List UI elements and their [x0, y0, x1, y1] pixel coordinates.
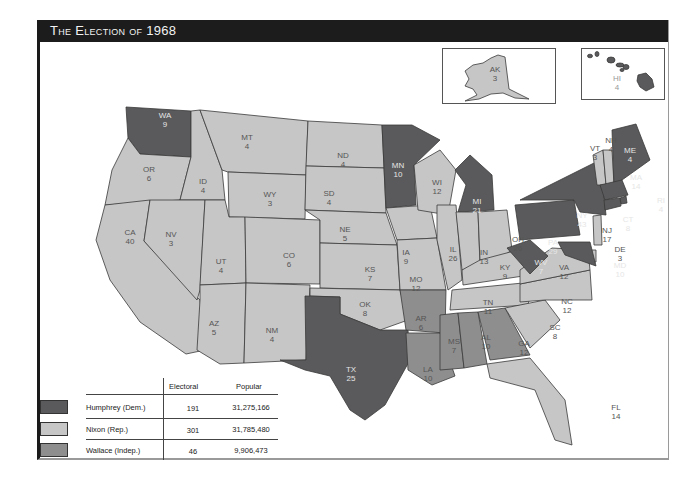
legend-header-popular: Popular	[236, 382, 262, 391]
state-votes-ga: 12	[520, 348, 529, 357]
state-votes-pa: 29	[549, 247, 558, 256]
state-az	[197, 283, 246, 364]
legend-rule	[86, 439, 278, 440]
nixon-swatch	[40, 422, 68, 436]
state-label-nc: NC	[561, 297, 573, 306]
state-votes-ar: 6	[419, 323, 424, 332]
state-label-ne: NE	[339, 225, 350, 234]
legend-row-electoral: 301	[173, 426, 213, 435]
legend-row-name: Humphrey (Dem.)	[86, 403, 146, 412]
humphrey-swatch	[40, 400, 68, 414]
state-votes-mn: 10	[394, 170, 403, 179]
state-votes-nc: 12	[563, 306, 572, 315]
legend-row-popular: 31,275,166	[220, 403, 282, 412]
legend-row-name: Nixon (Rep.)	[86, 425, 128, 434]
state-votes-la: 10	[424, 374, 433, 383]
state-label-az: AZ	[209, 319, 219, 328]
state-label-co: CO	[283, 251, 295, 260]
state-fl	[487, 358, 572, 445]
state-label-ga: GA	[518, 339, 530, 348]
state-votes-ct: 8	[626, 224, 631, 233]
legend-row-name: Wallace (Indep.)	[86, 446, 140, 455]
state-votes-sd: 4	[327, 198, 332, 207]
state-label-mi: MI	[473, 197, 482, 206]
state-votes-ms: 7	[452, 346, 457, 355]
legend-table: Electoral Popular Humphrey (Dem.) 191 31…	[40, 378, 280, 460]
state-label-de: DE	[614, 245, 625, 254]
state-votes-nd: 4	[341, 160, 346, 169]
state-label-nm: NM	[266, 326, 279, 335]
state-label-ct: CT	[623, 215, 634, 224]
state-votes-ok: 8	[363, 309, 368, 318]
state-votes-ia: 9	[404, 257, 409, 266]
state-label-mo: MO	[410, 275, 423, 284]
legend-divider	[163, 378, 164, 460]
state-votes-tn: 11	[484, 307, 493, 316]
state-votes-mt: 4	[245, 142, 250, 151]
state-ct	[604, 198, 621, 210]
state-votes-ri: 4	[659, 205, 664, 214]
state-votes-ky: 9	[503, 272, 508, 281]
hawaii-label: HI	[613, 74, 621, 83]
state-label-la: LA	[423, 365, 433, 374]
state-label-ri: RI	[657, 196, 665, 205]
state-votes-mi: 21	[473, 206, 482, 215]
state-label-ks: KS	[365, 265, 376, 274]
legend-row-electoral: 46	[173, 447, 213, 456]
state-votes-ne: 5	[343, 234, 348, 243]
legend-header-electoral: Electoral	[169, 382, 198, 391]
state-votes-md: 10	[616, 270, 625, 279]
state-votes-wa: 9	[163, 120, 168, 129]
state-label-nd: ND	[337, 151, 349, 160]
state-label-in: IN	[480, 248, 488, 257]
state-label-va: VA	[559, 263, 570, 272]
legend-rule	[86, 394, 278, 395]
alaska-inset: AK 3	[442, 48, 556, 104]
state-ri	[620, 196, 627, 204]
state-votes-il: 26	[449, 254, 458, 263]
state-votes-ny: 43	[578, 220, 587, 229]
state-votes-mo: 12	[412, 284, 421, 293]
legend-rule	[86, 418, 278, 419]
state-votes-fl: 14	[612, 412, 621, 421]
alaska-label: AK	[490, 65, 501, 74]
state-label-mt: MT	[241, 133, 253, 142]
state-label-ca: CA	[124, 228, 136, 237]
wallace-swatch	[40, 443, 68, 457]
state-label-ok: OK	[359, 300, 371, 309]
state-votes-ma: 14	[632, 182, 641, 191]
state-label-il: IL	[450, 245, 457, 254]
state-label-wa: WA	[159, 111, 172, 120]
state-votes-nm: 4	[270, 335, 275, 344]
state-votes-me: 4	[628, 155, 633, 164]
state-votes-co: 6	[287, 260, 292, 269]
legend-row-electoral: 191	[173, 404, 213, 413]
state-ks	[320, 243, 400, 290]
state-votes-in: 13	[480, 257, 489, 266]
state-label-oh: OH	[512, 235, 524, 244]
state-label-vt: VT	[590, 144, 600, 153]
state-votes-nv: 3	[169, 239, 174, 248]
state-votes-ca: 40	[126, 237, 135, 246]
state-votes-tx: 25	[347, 374, 356, 383]
state-label-tn: TN	[483, 298, 494, 307]
state-label-al: AL	[481, 333, 491, 342]
state-label-tx: TX	[346, 365, 357, 374]
state-label-wi: WI	[432, 178, 442, 187]
state-label-id: ID	[199, 177, 207, 186]
state-label-sc: SC	[549, 323, 560, 332]
state-votes-nj: 17	[603, 235, 612, 244]
state-votes-wy: 3	[268, 199, 273, 208]
state-votes-sc: 8	[553, 332, 558, 341]
state-label-nv: NV	[165, 230, 177, 239]
state-label-or: OR	[143, 165, 155, 174]
state-sd	[305, 166, 386, 213]
state-nj	[593, 215, 602, 245]
legend-row-popular: 9,906,473	[220, 446, 282, 455]
hawaii-inset: HI 4	[581, 48, 665, 100]
hawaii-votes: 4	[615, 83, 620, 92]
state-label-wv: WV	[535, 258, 549, 267]
alaska-shape: AK 3	[443, 49, 554, 102]
legend-row-popular: 31,785,480	[220, 425, 282, 434]
state-label-pa: PA	[548, 238, 559, 247]
